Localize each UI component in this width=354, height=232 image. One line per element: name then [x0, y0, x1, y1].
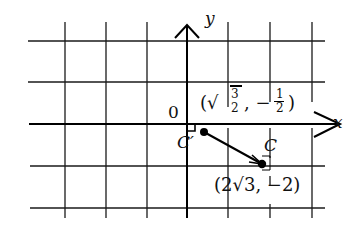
- frac1-den: 2: [231, 102, 239, 114]
- right-angle-mark: [187, 124, 195, 131]
- point-c-label: C: [264, 137, 277, 154]
- point-c: [258, 160, 266, 168]
- origin-label: 0: [168, 104, 179, 121]
- y-axis-label: y: [205, 10, 215, 27]
- segment-cprime-c: [204, 132, 262, 164]
- point-cprime-label: C′: [177, 134, 194, 151]
- coordinate-diagram: y x 0 C′ C (√ 3 2 , − 1 2 ) (2√3, −2): [0, 0, 354, 232]
- x-axis-label: x: [333, 114, 343, 131]
- point-cprime: [200, 128, 208, 136]
- frac2-den: 2: [276, 102, 284, 114]
- cprime-sep: , −: [244, 94, 271, 112]
- frac2-num: 1: [276, 88, 284, 100]
- c-coordinates: (2√3, −2): [214, 176, 300, 194]
- frac1-num: 3: [231, 88, 239, 100]
- cprime-close-paren: ): [288, 94, 295, 112]
- cprime-open-paren: (√: [200, 94, 219, 112]
